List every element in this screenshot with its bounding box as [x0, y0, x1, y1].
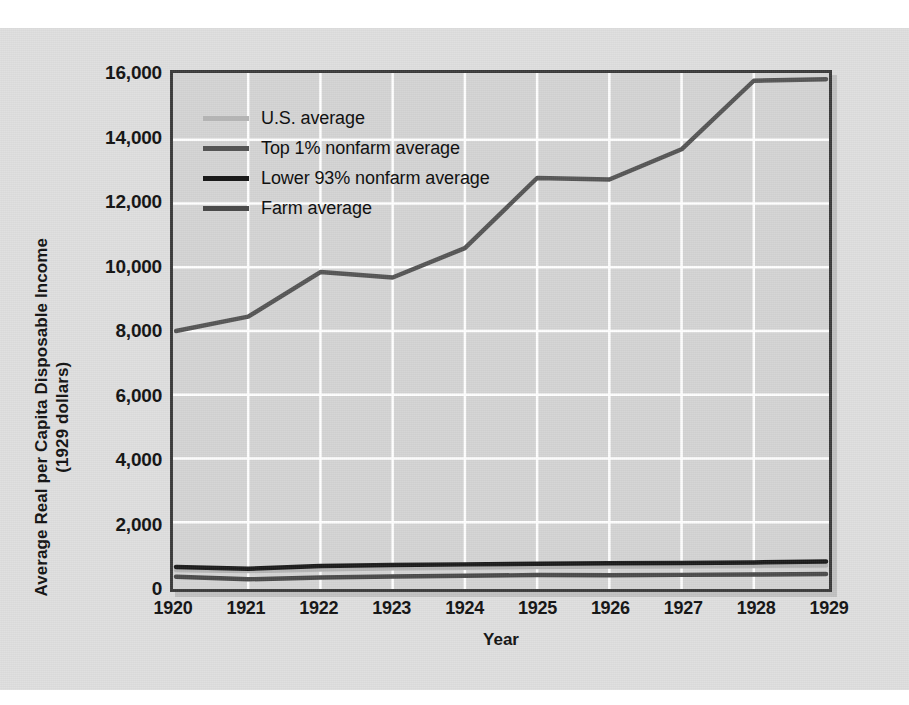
y-tick-label: 2,000: [84, 514, 162, 536]
legend-label: Lower 93% nonfarm average: [261, 168, 490, 189]
x-axis-tick-labels: 1920192119221923192419251926192719281929: [170, 598, 832, 626]
plot-area: U.S. averageTop 1% nonfarm averageLower …: [170, 70, 832, 592]
y-axis-title: Average Real per Capita Disposable Incom…: [31, 207, 74, 627]
y-axis-title-line1: Average Real per Capita Disposable Incom…: [32, 238, 51, 597]
y-tick-label: 8,000: [84, 320, 162, 342]
y-tick-label: 4,000: [84, 449, 162, 471]
legend-item[interactable]: Farm average: [203, 193, 490, 223]
legend-swatch-icon: [203, 146, 249, 151]
x-tick-label: 1928: [721, 598, 791, 619]
legend-label: Farm average: [261, 198, 372, 219]
figure-panel: Average Real per Capita Disposable Incom…: [0, 28, 909, 690]
legend-label: Top 1% nonfarm average: [261, 138, 460, 159]
x-tick-label: 1929: [794, 598, 864, 619]
y-axis-tick-labels: 02,0004,0006,0008,00010,00012,00014,0001…: [82, 28, 162, 690]
chart-legend: U.S. averageTop 1% nonfarm averageLower …: [203, 103, 490, 223]
y-tick-label: 6,000: [84, 385, 162, 407]
legend-label: U.S. average: [261, 108, 365, 129]
legend-swatch-icon: [203, 206, 249, 211]
legend-item[interactable]: U.S. average: [203, 103, 490, 133]
y-tick-label: 10,000: [84, 256, 162, 278]
series-line: [176, 574, 826, 579]
legend-item[interactable]: Top 1% nonfarm average: [203, 133, 490, 163]
x-axis-title: Year: [170, 630, 832, 650]
legend-item[interactable]: Lower 93% nonfarm average: [203, 163, 490, 193]
x-tick-label: 1920: [138, 598, 208, 619]
x-tick-label: 1923: [357, 598, 427, 619]
x-tick-label: 1924: [430, 598, 500, 619]
legend-swatch-icon: [203, 116, 249, 121]
x-tick-label: 1926: [575, 598, 645, 619]
y-axis-title-line2: (1929 dollars): [53, 362, 72, 473]
x-tick-label: 1925: [502, 598, 572, 619]
x-tick-label: 1927: [648, 598, 718, 619]
x-tick-label: 1921: [211, 598, 281, 619]
x-tick-label: 1922: [284, 598, 354, 619]
y-tick-label: 14,000: [84, 127, 162, 149]
y-tick-label: 16,000: [84, 62, 162, 84]
y-tick-label: 12,000: [84, 191, 162, 213]
y-tick-label: 0: [84, 578, 162, 600]
page-bleed-through: [0, 0, 909, 30]
legend-swatch-icon: [203, 176, 249, 181]
